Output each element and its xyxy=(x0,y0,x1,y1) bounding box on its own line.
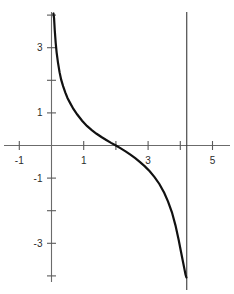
x-tick-labels: -1135 xyxy=(15,155,216,166)
x-tick-label: 3 xyxy=(145,155,151,166)
y-tick-label: 1 xyxy=(37,107,43,118)
x-tick-label: 1 xyxy=(81,155,87,166)
function-plot: -1135 -3-113 xyxy=(0,0,234,294)
x-tick-label: -1 xyxy=(15,155,24,166)
y-tick-label: -1 xyxy=(34,173,43,184)
y-tick-label: -3 xyxy=(34,238,43,249)
x-tick-label: 5 xyxy=(210,155,216,166)
y-tick-label: 3 xyxy=(37,42,43,53)
plot-canvas: -1135 -3-113 xyxy=(0,0,234,294)
